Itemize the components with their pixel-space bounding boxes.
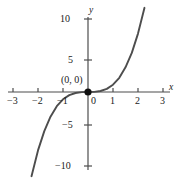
plot-canvas [0,0,178,184]
x-tick-label-2: 2 [135,96,140,106]
y-tick-label-10: 10 [60,14,70,24]
x-tick-label-minus-1: −1 [57,96,68,106]
y-tick-label-5: 5 [68,55,73,65]
x-tick-label-1: 1 [110,96,115,106]
x-tick-label-3: 3 [160,96,165,106]
y-axis-label: y [89,6,93,16]
x-tick-label-0: 0 [91,96,96,106]
origin-point-label: (0, 0) [61,75,83,85]
x-tick-label-minus-3: −3 [7,96,18,106]
y-tick-label-minus-10: −10 [55,161,71,171]
cubic-function-graph: 10 5 −5 −10 −3 −2 −1 0 1 2 3 y x (0, 0) [0,0,178,184]
y-tick-label-minus-5: −5 [62,120,73,130]
x-axis-label: x [169,83,173,93]
x-tick-label-minus-2: −2 [32,96,43,106]
